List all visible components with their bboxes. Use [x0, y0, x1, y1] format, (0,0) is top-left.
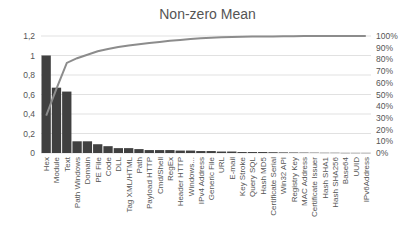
y2-tick-label: 50%: [376, 90, 393, 100]
x-tick-label: Hash SHA256: [331, 156, 340, 207]
bar: [103, 146, 112, 153]
x-tick-label: Hash SHA1: [321, 156, 330, 198]
y2-tick-label: 0%: [376, 148, 389, 158]
x-tick-label: MAC Address: [300, 157, 309, 206]
bar: [227, 152, 236, 153]
y2-tick-label: 80%: [376, 54, 393, 64]
y-tick-label: 0,8: [23, 70, 35, 80]
x-tick-label: PE File: [94, 156, 103, 182]
x-tick-label: Tag XML/HTML: [125, 156, 134, 212]
x-tick-label: Registry Key: [290, 157, 299, 202]
x-tick-label: Text: [63, 156, 72, 171]
x-tick-label: Query SQL: [248, 156, 257, 197]
bar: [196, 151, 205, 153]
y-tick-label: 1: [30, 51, 35, 61]
x-tick-label: URL: [217, 156, 226, 173]
cumulative-line: [46, 36, 366, 116]
y-tick-label: 0,6: [23, 90, 35, 100]
x-tick-label: Hash MD5: [259, 156, 268, 194]
x-tick-label: Header HTTP: [176, 157, 185, 206]
bar: [42, 56, 51, 154]
x-tick-label: Key Stroke: [238, 156, 247, 196]
bar: [207, 151, 216, 153]
bar: [279, 152, 288, 153]
bar: [237, 152, 246, 153]
x-tick-label: Windows...: [187, 157, 196, 196]
x-tick-label: Hex: [42, 157, 51, 171]
x-tick-label: Base64: [341, 156, 350, 184]
bar: [217, 152, 226, 153]
x-tick-label: Payload HTTP: [145, 157, 154, 209]
x-tick-label: Certificate Issuer: [310, 157, 319, 217]
bar: [155, 150, 164, 153]
x-tick-label: Path: [135, 157, 144, 173]
x-tick-label: Cmd/Shell: [156, 157, 165, 194]
y2-tick-label: 100%: [376, 31, 398, 41]
bar: [145, 150, 154, 153]
y2-tick-label: 60%: [376, 78, 393, 88]
x-tick-label: Module: [52, 156, 61, 183]
x-tick-label: Code: [104, 156, 113, 176]
y-tick-label: 0,2: [23, 129, 35, 139]
bar: [114, 148, 123, 153]
bar: [62, 92, 71, 153]
bar: [176, 151, 185, 153]
x-tick-label: DLL: [114, 156, 123, 171]
x-tick-label: Certificate Serial: [269, 157, 278, 216]
y-tick-label: 1,2: [23, 31, 35, 41]
bar: [186, 151, 195, 153]
pareto-chart: 00,20,40,60,811,20%10%20%30%40%50%60%70%…: [0, 0, 415, 233]
x-tick-label: Domain: [83, 157, 92, 185]
bar: [165, 150, 174, 153]
bar: [248, 152, 257, 153]
bar: [124, 148, 133, 153]
x-tick-label: Generic File: [207, 156, 216, 200]
y2-tick-label: 40%: [376, 101, 393, 111]
bar: [258, 152, 267, 153]
x-tick-label: RegEx: [166, 157, 175, 181]
y-tick-label: 0: [30, 148, 35, 158]
bar: [72, 141, 81, 153]
x-tick-label: E-mail: [228, 157, 237, 180]
bar: [83, 141, 92, 153]
y2-tick-label: 20%: [376, 125, 393, 135]
y2-tick-label: 10%: [376, 136, 393, 146]
bar: [268, 152, 277, 153]
x-tick-label: Path Windows: [73, 157, 82, 208]
x-tick-label: UUID: [352, 157, 361, 177]
y2-tick-label: 30%: [376, 113, 393, 123]
bar: [93, 144, 102, 153]
x-tick-label: IPv6Address: [362, 157, 371, 202]
x-tick-label: Win32 API: [279, 157, 288, 194]
y-tick-label: 0,4: [23, 109, 35, 119]
y2-tick-label: 90%: [376, 43, 393, 53]
bar: [134, 149, 143, 153]
y2-tick-label: 70%: [376, 66, 393, 76]
x-tick-label: IPv4 Address: [197, 157, 206, 204]
